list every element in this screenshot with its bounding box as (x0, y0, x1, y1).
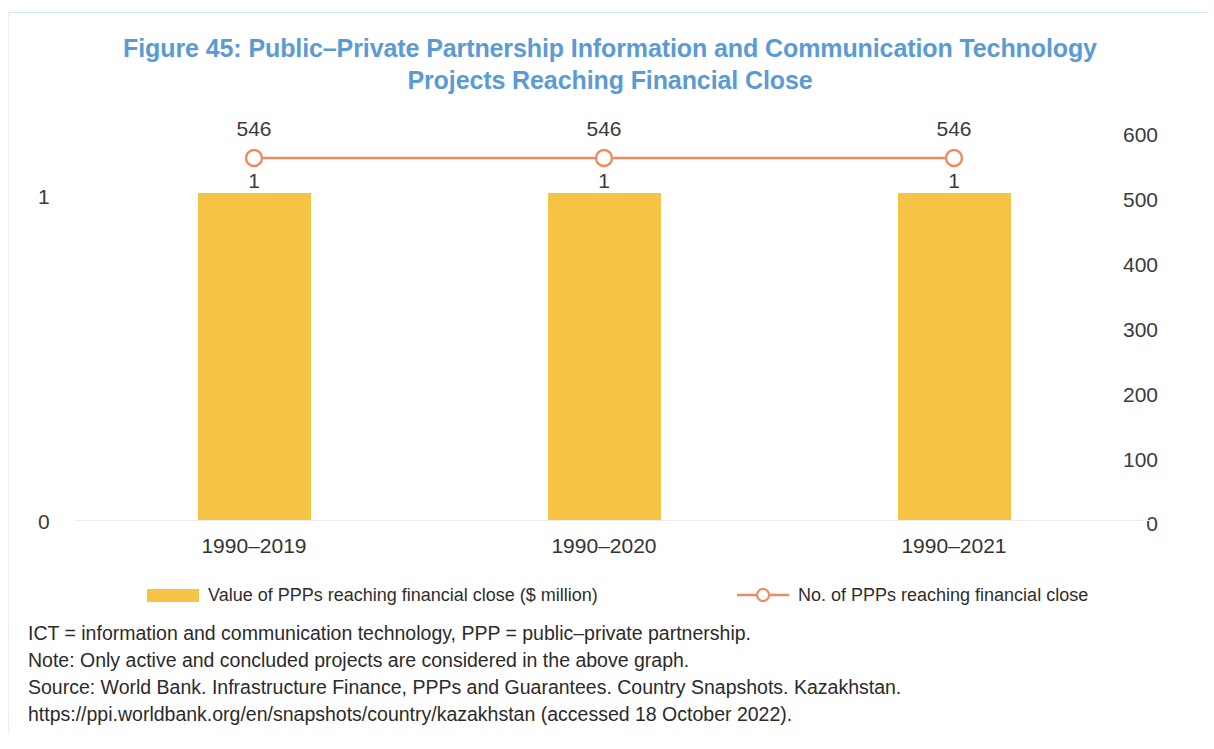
left-axis-tick-1: 1 (38, 186, 50, 207)
right-axis-tick-500: 500 (1098, 189, 1158, 210)
chart-legend: Value of PPPs reaching financial close (… (0, 583, 1214, 607)
legend-bar-swatch-icon (147, 589, 199, 602)
line-marker-1990-2021[interactable] (946, 150, 962, 166)
figure-page: Figure 45: Public–Private Partnership In… (0, 0, 1214, 749)
line-value-label-1990-2019: 1 (184, 170, 324, 191)
right-axis-tick-300: 300 (1098, 319, 1158, 340)
legend-line-marker-icon (737, 588, 789, 602)
right-axis-tick-600: 600 (1098, 124, 1158, 145)
bar-value-label-1990-2019: 546 (184, 118, 324, 139)
bar-value-label-1990-2021: 546 (884, 118, 1024, 139)
bar-1990-2019[interactable] (198, 193, 311, 520)
line-value-label-1990-2020: 1 (534, 170, 674, 191)
note-source: Source: World Bank. Infrastructure Finan… (28, 674, 1203, 728)
chart-baseline (75, 520, 1150, 521)
x-axis-label-1990-2019: 1990–2019 (144, 535, 364, 556)
right-axis-tick-400: 400 (1098, 254, 1158, 275)
left-axis-tick-0: 0 (38, 511, 50, 532)
note-general: Note: Only active and concluded projects… (28, 647, 1203, 674)
bar-1990-2021[interactable] (898, 193, 1011, 520)
note-abbreviations: ICT = information and communication tech… (28, 620, 1203, 647)
figure-notes: ICT = information and communication tech… (28, 620, 1203, 728)
bar-value-label-1990-2020: 546 (534, 118, 674, 139)
legend-label-no-of-ppps: No. of PPPs reaching financial close (798, 585, 1088, 605)
x-axis-label-1990-2021: 1990–2021 (844, 535, 1064, 556)
legend-item-no-of-ppps[interactable]: No. of PPPs reaching financial close (737, 583, 1088, 607)
line-value-label-1990-2021: 1 (884, 170, 1024, 191)
line-marker-1990-2020[interactable] (596, 150, 612, 166)
legend-label-value-of-ppps: Value of PPPs reaching financial close (… (208, 585, 598, 605)
line-marker-1990-2019[interactable] (246, 150, 262, 166)
right-axis-tick-100: 100 (1098, 449, 1158, 470)
bar-1990-2020[interactable] (548, 193, 661, 520)
right-axis-tick-200: 200 (1098, 384, 1158, 405)
legend-item-value-of-ppps[interactable]: Value of PPPs reaching financial close (… (147, 583, 598, 607)
x-axis-label-1990-2020: 1990–2020 (494, 535, 714, 556)
right-axis-tick-0: 0 (1098, 513, 1158, 534)
